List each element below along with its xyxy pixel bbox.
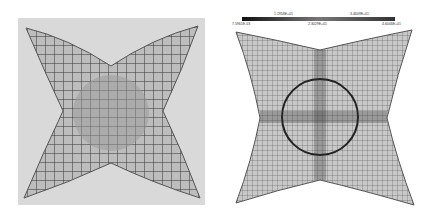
simulation-panel: 1.1958E+01 3.4609E+01 7.5961E-03 2.3029E… xyxy=(222,0,422,215)
experiment-photo xyxy=(18,18,205,205)
photo-grid-shape xyxy=(18,18,205,205)
fem-mesh xyxy=(222,0,422,215)
